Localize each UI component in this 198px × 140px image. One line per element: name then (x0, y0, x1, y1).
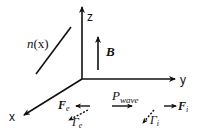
density-gradient: n(x) (27, 27, 71, 74)
b-field-label: B (105, 44, 115, 59)
wave-power: Pwave (111, 88, 138, 106)
y-axis-label: y (180, 73, 186, 87)
electron-force: Fe (57, 98, 90, 113)
ion-flux: Γi (143, 110, 159, 128)
z-axis-label: z (87, 10, 93, 24)
ion-force-label: Fi (177, 99, 188, 114)
x-axis-label: x (9, 110, 15, 124)
ion-force: Fi (164, 99, 188, 114)
density-label: n(x) (27, 36, 49, 51)
electron-force-label: Fe (57, 98, 70, 113)
electron-flux-label: Γe (71, 115, 83, 130)
ion-flux-label: Γi (149, 113, 159, 128)
electron-flux: Γe (69, 110, 88, 130)
x-axis-arrow-icon (24, 79, 82, 115)
magnetic-field: B (98, 37, 115, 70)
wave-power-label: Pwave (111, 88, 138, 105)
plasma-coordinate-diagram: z y x n(x) B Pwave Fe Γe Fi Γi (0, 0, 198, 140)
